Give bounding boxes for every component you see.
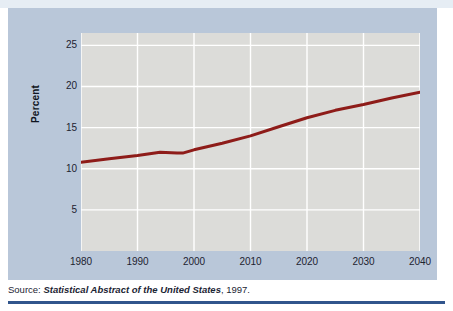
x-tick-label: 1980 bbox=[56, 256, 106, 268]
y-tick-label: 20 bbox=[55, 81, 77, 91]
x-axis-tick-labels: 1980199020002010202020302040 bbox=[81, 256, 420, 270]
vertical-gridlines bbox=[81, 33, 420, 251]
source-title: Statistical Abstract of the United State… bbox=[43, 284, 221, 295]
source-year: , 1997. bbox=[221, 284, 250, 295]
bottom-rule bbox=[8, 301, 445, 304]
x-tick-label: 2030 bbox=[339, 256, 389, 268]
chart-panel: Percent 510152025 1980199020002010202020… bbox=[8, 8, 437, 280]
plot-area bbox=[81, 33, 420, 251]
source-label: Source: bbox=[8, 284, 41, 295]
y-tick-label: 25 bbox=[55, 40, 77, 50]
y-axis-tick-labels: 510152025 bbox=[52, 33, 77, 251]
y-tick-label: 15 bbox=[55, 123, 77, 133]
y-tick-label: 10 bbox=[55, 164, 77, 174]
top-band bbox=[0, 0, 453, 8]
y-tick-label: 5 bbox=[55, 205, 77, 215]
x-tick-label: 2000 bbox=[169, 256, 219, 268]
source-note: Source: Statistical Abstract of the Unit… bbox=[8, 284, 250, 295]
x-tick-label: 2040 bbox=[395, 256, 445, 268]
line-chart-svg bbox=[81, 33, 420, 251]
figure-container: Percent 510152025 1980199020002010202020… bbox=[0, 0, 453, 311]
x-tick-label: 2010 bbox=[226, 256, 276, 268]
x-tick-label: 2020 bbox=[282, 256, 332, 268]
x-tick-label: 1990 bbox=[113, 256, 163, 268]
y-axis-title: Percent bbox=[30, 85, 41, 123]
